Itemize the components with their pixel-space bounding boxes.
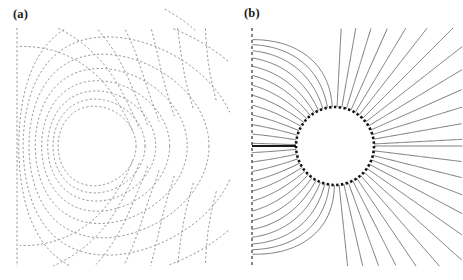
panel-b-label: (b) [244,7,260,20]
panel-a-label: (a) [13,8,28,21]
figure-container: (a) (b) [0,0,463,280]
panel-a-plot [0,0,232,280]
panel-b: (b) [232,0,463,280]
panel-a: (a) [0,0,232,280]
panel-b-plot [232,0,463,280]
